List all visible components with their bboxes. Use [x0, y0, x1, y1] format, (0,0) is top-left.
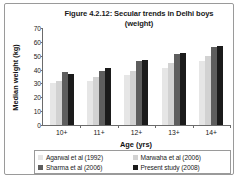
chart-title: Figure 4.2.12: Secular trends in Delhi b…	[49, 9, 229, 29]
y-axis-tick-60: 60	[25, 38, 41, 45]
legend-item-2: Sharma et al (2006)	[38, 164, 133, 171]
figure-frame: Figure 4.2.12: Secular trends in Delhi b…	[4, 3, 234, 175]
bar-group-10+	[43, 28, 80, 125]
bar-group-13+	[155, 28, 192, 125]
x-axis-label: Age (yrs)	[42, 140, 230, 149]
x-axis-tick-12+: 12+	[131, 129, 143, 136]
legend-swatch-icon-2	[38, 165, 43, 170]
legend-label-1: Marwaha et al (2006)	[141, 154, 201, 161]
bar-group-14+	[193, 28, 230, 125]
legend-swatch-icon-0	[38, 155, 43, 160]
legend-item-0: Agarwal et al (1992)	[38, 154, 133, 161]
legend-label-0: Agarwal et al (1992)	[46, 154, 103, 161]
x-axis-tick-13+: 13+	[168, 129, 180, 136]
x-axis-tickmark-3	[193, 125, 194, 128]
x-axis-tick-11+: 11+	[94, 129, 105, 136]
x-axis-tickmark-0	[80, 125, 81, 128]
legend-item-3: Present study (2008)	[133, 164, 228, 171]
y-axis-tick-50: 50	[25, 52, 41, 59]
y-axis-tick-40: 40	[25, 66, 41, 73]
x-axis-tickmark-1	[118, 125, 119, 128]
bar-12+-series-3	[142, 60, 148, 125]
bar-13+-series-3	[180, 53, 186, 125]
y-axis-tick-70: 70	[25, 25, 41, 32]
y-axis-label: Median weight (kg)	[10, 28, 21, 126]
bar-11+-series-3	[105, 68, 111, 125]
bar-10+-series-3	[68, 74, 74, 125]
y-axis-tick-0: 0	[25, 122, 41, 129]
chart-legend: Agarwal et al (1992) Marwaha et al (2006…	[34, 150, 231, 174]
legend-swatch-icon-1	[133, 155, 138, 160]
y-axis-tick-30: 30	[25, 80, 41, 87]
x-axis-tick-14+: 14+	[206, 129, 218, 136]
x-axis-tickmark-4	[230, 125, 231, 128]
y-axis-tick-10: 10	[25, 108, 41, 115]
x-axis-tickmark-2	[155, 125, 156, 128]
bar-14+-series-3	[217, 46, 223, 125]
y-axis-tickmark-0	[41, 125, 43, 126]
bar-group-12+	[118, 28, 155, 125]
y-axis-label-text: Median weight (kg)	[11, 44, 20, 111]
y-axis-tick-20: 20	[25, 94, 41, 101]
plot-area: 01020304050607010+11+12+13+14+	[42, 28, 230, 126]
x-axis-tick-10+: 10+	[56, 129, 68, 136]
legend-label-2: Sharma et al (2006)	[46, 164, 102, 171]
legend-label-3: Present study (2008)	[141, 164, 200, 171]
bar-group-11+	[80, 28, 117, 125]
legend-swatch-icon-3	[133, 165, 138, 170]
chart-title-line-1: Figure 4.2.12: Secular trends in Delhi b…	[49, 9, 229, 19]
legend-item-1: Marwaha et al (2006)	[133, 154, 228, 161]
